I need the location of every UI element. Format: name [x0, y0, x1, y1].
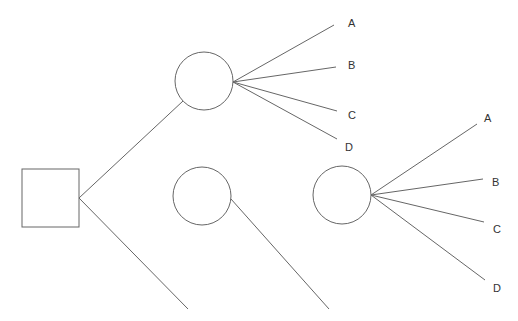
right-label-c: C [493, 223, 501, 235]
top-label-b: B [348, 59, 355, 71]
right-branch-b [371, 179, 483, 195]
top-label-d: D [345, 141, 353, 153]
branch-lower [79, 198, 188, 309]
top-branch-a [233, 25, 334, 82]
right-branch-a [371, 124, 477, 195]
top-label-a: A [348, 17, 355, 29]
branch-to-top-chance [79, 101, 183, 198]
chance-node-middle [173, 167, 231, 225]
top-branch-c [233, 82, 337, 111]
middle-branch [231, 199, 329, 309]
chance-node-top [175, 52, 233, 110]
right-label-d: D [493, 282, 501, 294]
right-branch-c [371, 195, 484, 222]
top-label-c: C [348, 109, 356, 121]
decision-tree-canvas [0, 0, 518, 321]
decision-node-square [22, 169, 79, 227]
top-branch-d [233, 82, 337, 139]
right-label-a: A [484, 112, 491, 124]
chance-node-right [313, 166, 371, 224]
top-branch-b [233, 67, 336, 82]
right-label-b: B [492, 176, 499, 188]
right-branch-d [371, 195, 485, 280]
